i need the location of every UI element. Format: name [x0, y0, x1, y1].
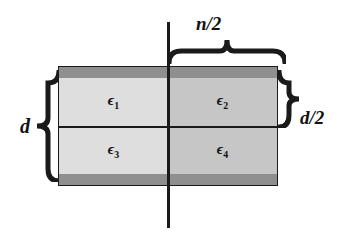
epsilon-subscript-1: 1 [114, 100, 119, 111]
brace-top-icon [168, 38, 286, 64]
epsilon-subscript-3: 3 [114, 149, 119, 160]
epsilon-subscript-2: 2 [223, 100, 228, 111]
center-axis-line [167, 22, 170, 228]
dimension-label-top: n/2 [196, 14, 221, 33]
epsilon-subscript-4: 4 [223, 149, 228, 160]
dimension-label-left: d [20, 116, 30, 136]
quadrant-label-epsilon-3: ϵ3 [59, 142, 168, 160]
quadrant-label-epsilon-4: ϵ4 [168, 142, 277, 160]
dimension-label-right: d/2 [300, 108, 324, 127]
quadrant-label-epsilon-2: ϵ2 [168, 93, 277, 111]
brace-left-icon [36, 70, 60, 182]
brace-right-icon [278, 70, 300, 128]
dielectric-slab-quadrants-diagram: n/2 d d/2 ϵ1 ϵ2 ϵ3 ϵ4 [0, 0, 359, 239]
quadrant-label-epsilon-1: ϵ1 [59, 93, 168, 111]
